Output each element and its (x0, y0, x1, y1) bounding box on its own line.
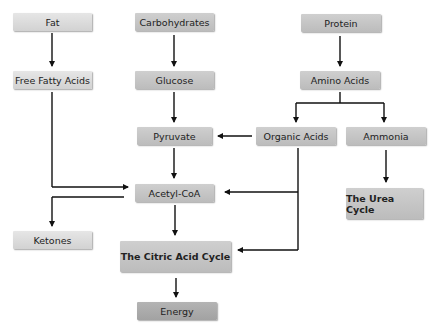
node-label: Ketones (34, 235, 72, 246)
node-organic-acids: Organic Acids (256, 127, 336, 145)
node-label: Pyruvate (153, 131, 195, 142)
node-label: Fat (45, 17, 59, 28)
node-ketones: Ketones (13, 231, 92, 249)
node-label: The Citric Acid Cycle (121, 251, 231, 262)
node-free-fatty-acids: Free Fatty Acids (13, 71, 92, 89)
node-urea-cycle: The Urea Cycle (346, 188, 423, 219)
node-acetyl-coa: Acetyl-CoA (135, 184, 214, 202)
node-carbohydrates: Carbohydrates (135, 13, 214, 31)
node-label: Glucose (156, 75, 194, 86)
node-label: Acetyl-CoA (149, 188, 201, 199)
node-glucose: Glucose (135, 71, 214, 89)
node-citric-acid-cycle: The Citric Acid Cycle (120, 241, 231, 272)
node-pyruvate: Pyruvate (137, 127, 212, 145)
node-energy: Energy (137, 302, 217, 320)
node-label: Ammonia (363, 131, 408, 142)
node-label: The Urea Cycle (346, 193, 423, 215)
node-protein: Protein (301, 14, 381, 32)
node-label: Energy (160, 306, 193, 317)
node-label: Organic Acids (263, 131, 328, 142)
connector-arrows (0, 0, 434, 328)
node-label: Amino Acids (311, 75, 369, 86)
node-amino-acids: Amino Acids (300, 71, 380, 89)
node-label: Free Fatty Acids (15, 75, 90, 86)
node-fat: Fat (13, 13, 92, 31)
node-label: Protein (324, 18, 357, 29)
metabolism-flow-diagram: Fat Carbohydrates Protein Free Fatty Aci… (0, 0, 434, 328)
node-label: Carbohydrates (139, 17, 209, 28)
node-ammonia: Ammonia (346, 127, 426, 145)
